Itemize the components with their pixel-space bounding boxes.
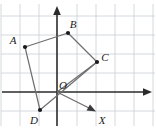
ray-label-x: X — [98, 114, 107, 126]
point-label-c: C — [101, 51, 109, 63]
point-a-marker — [23, 45, 27, 49]
point-label-a: A — [9, 34, 17, 46]
coordinate-plane-figure: A B C D O X — [0, 0, 156, 128]
origin-label-o: O — [59, 79, 67, 91]
canvas-background — [0, 0, 156, 128]
point-b-marker — [66, 31, 70, 35]
geometry-diagram-screenshot: A B C D O X — [0, 0, 156, 128]
point-c-marker — [95, 60, 99, 64]
point-d-marker — [38, 108, 42, 112]
point-label-b: B — [70, 18, 77, 30]
point-label-d: D — [29, 114, 38, 126]
